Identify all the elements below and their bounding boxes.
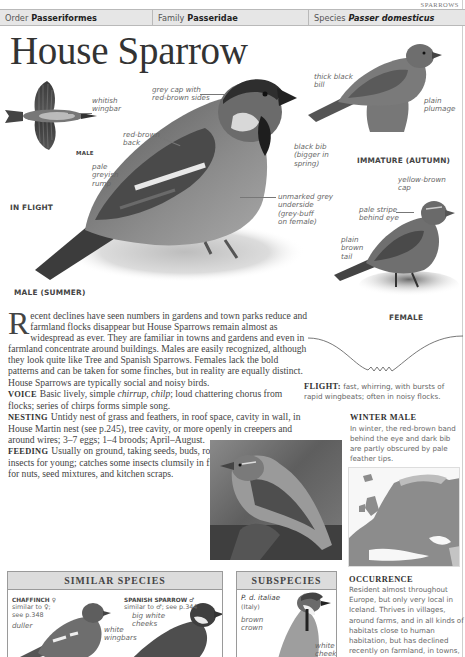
voice-label: VOICE [8, 390, 37, 399]
label-black-bib: black bib (bigger in spring) [294, 143, 329, 168]
voice-text: Basic lively, simple [40, 388, 118, 399]
similar-species-heading: SIMILAR SPECIES [8, 572, 222, 590]
flight-description: FLIGHT: fast, whirring, with bursts of r… [304, 382, 464, 401]
order-label: Order [5, 13, 28, 23]
page-title: House Sparrow [10, 28, 248, 73]
male-summer-bird-illustration [25, 70, 295, 300]
leader-line [200, 94, 226, 95]
subspecies-label-brown-crown: brown crown [241, 616, 263, 633]
subspecies-label-white-cheeks: white cheeks [315, 642, 337, 657]
occurrence-title: OCCURRENCE [349, 575, 413, 584]
label-red-brown-back: red-brown back [123, 131, 160, 148]
caption-female: FEMALE [389, 313, 423, 322]
distribution-map [348, 467, 460, 567]
similar-species-box: SIMILAR SPECIES CHAFFINCH ♀ similar to ♀… [7, 571, 223, 657]
nesting-label: NESTING [8, 413, 48, 422]
voice-section: VOICEBasic lively, simple chirrup, chilp… [8, 388, 308, 411]
label-pale-stripe: pale stripe behind eye [359, 206, 399, 223]
family-label: Family [158, 13, 184, 23]
caption-male-summer: MALE (SUMMER) [14, 288, 86, 297]
intro-paragraph: ecent declines have seen numbers in gard… [8, 310, 307, 388]
subspecies-name: P. d. italiae [241, 594, 280, 602]
spanish-sparrow-label-cheeks: big white cheeks [132, 612, 165, 629]
chaffinch-label-duller: duller [12, 622, 33, 630]
dropcap: R [8, 311, 29, 335]
label-yellow-brown-cap: yellow-brown cap [398, 176, 446, 193]
taxonomy-species: Species Passer domesticus [309, 10, 465, 25]
family-value: Passeridae [187, 13, 237, 23]
page-edge-rule [462, 0, 463, 657]
subspecies-box: SUBSPECIES P. d. italiae (Italy) brown c… [236, 571, 337, 657]
voice-calls: chirrup, chilp [118, 388, 171, 399]
occurrence-text: Resident almost throughout Europe, but o… [349, 585, 464, 657]
label-pale-greyish-rump: pale greyish rump [92, 163, 119, 188]
species-value: Passer domesticus [349, 13, 435, 23]
taxonomy-order: Order Passeriformes [0, 10, 153, 25]
winter-male-text: In winter, the red-brown band behind the… [350, 424, 462, 464]
taxonomy-bar: Order Passeriformes Family Passeridae Sp… [0, 9, 465, 26]
caption-immature-autumn: IMMATURE (AUTUMN) [357, 156, 450, 165]
immature-bird-illustration [308, 40, 443, 135]
leader-line [396, 212, 414, 213]
winter-male-photo [210, 440, 342, 560]
subspecies-region: (Italy) [241, 603, 260, 611]
label-unmarked-grey-underside: unmarked grey underside (grey-buff on fe… [278, 193, 333, 227]
feeding-label: FEEDING [8, 447, 48, 456]
section-tag: SPARROWS [421, 1, 459, 8]
winter-male-bird-image [210, 440, 342, 560]
label-plain-brown-tail: plain brown tail [341, 236, 363, 261]
leader-line [240, 197, 276, 198]
winter-male-title: WINTER MALE [350, 413, 417, 422]
europe-range-map [349, 468, 460, 567]
flight-label: FLIGHT: [304, 382, 341, 391]
flight-pattern-diagram [308, 330, 463, 375]
subspecies-heading: SUBSPECIES [237, 572, 336, 590]
taxonomy-family: Family Passeridae [153, 10, 309, 25]
order-value: Passeriformes [31, 13, 97, 23]
species-label: Species [314, 13, 346, 23]
label-plain-plumage: plain plumage [424, 97, 456, 114]
chaffinch-note: similar to ♀; see p.348 [12, 603, 51, 620]
